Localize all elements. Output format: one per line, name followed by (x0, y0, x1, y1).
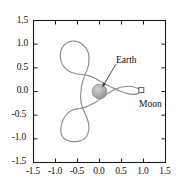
earth-label: Earth (116, 55, 137, 65)
earth-marker (92, 84, 107, 99)
y-tick-label: -1.0 (0, 132, 26, 142)
annotation-leader-layer (103, 64, 116, 87)
y-tick-label: 1.0 (2, 38, 28, 48)
x-tick-label: 1.5 (152, 166, 178, 176)
y-tick-label: 1.5 (2, 15, 28, 25)
y-tick-label: 0.0 (2, 85, 28, 95)
y-tick-label: 0.5 (2, 62, 28, 72)
body-markers-layer (92, 84, 144, 99)
moon-marker (139, 88, 144, 93)
moon-label: Moon (139, 99, 162, 109)
y-tick-label: -1.5 (0, 156, 26, 166)
trajectory-figure: 1.5 1.0 0.5 0.0 -0.5 -1.0 -1.5 -1.5 -1.0… (0, 0, 186, 188)
y-tick-label: -0.5 (0, 109, 26, 119)
earth-leader-line (103, 64, 116, 87)
